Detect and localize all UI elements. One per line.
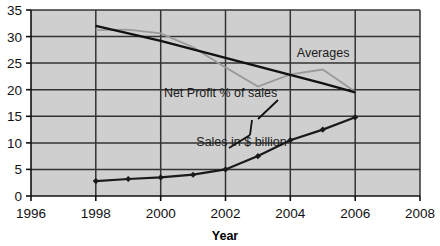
- y-axis-tick-labels: 05101520253035: [7, 3, 22, 204]
- x-tick-label: 2006: [340, 206, 370, 221]
- x-tick-label: 2004: [275, 206, 306, 221]
- annotation-label: Averages: [297, 46, 350, 60]
- annotation-label: Sales in $ billion: [196, 135, 286, 149]
- chart-container: 05101520253035 1996199820002002200420062…: [0, 0, 440, 246]
- annotation-label: Net Profit % of sales: [164, 86, 277, 100]
- x-axis-tick-labels: 1996199820002002200420062008: [16, 206, 435, 221]
- line-chart: 05101520253035 1996199820002002200420062…: [0, 0, 440, 246]
- y-tick-label: 10: [7, 136, 22, 151]
- x-tick-label: 1998: [81, 206, 111, 221]
- x-tick-label: 2002: [210, 206, 240, 221]
- y-tick-label: 20: [7, 83, 22, 98]
- y-tick-label: 25: [7, 56, 22, 71]
- x-axis-title: Year: [212, 229, 239, 243]
- x-tick-label: 1996: [16, 206, 46, 221]
- x-tick-label: 2000: [146, 206, 176, 221]
- y-tick-label: 35: [7, 3, 22, 18]
- y-tick-label: 30: [7, 30, 22, 45]
- x-tick-label: 2008: [405, 206, 435, 221]
- y-tick-label: 15: [7, 109, 22, 124]
- y-tick-label: 0: [14, 189, 22, 204]
- y-tick-label: 5: [14, 162, 22, 177]
